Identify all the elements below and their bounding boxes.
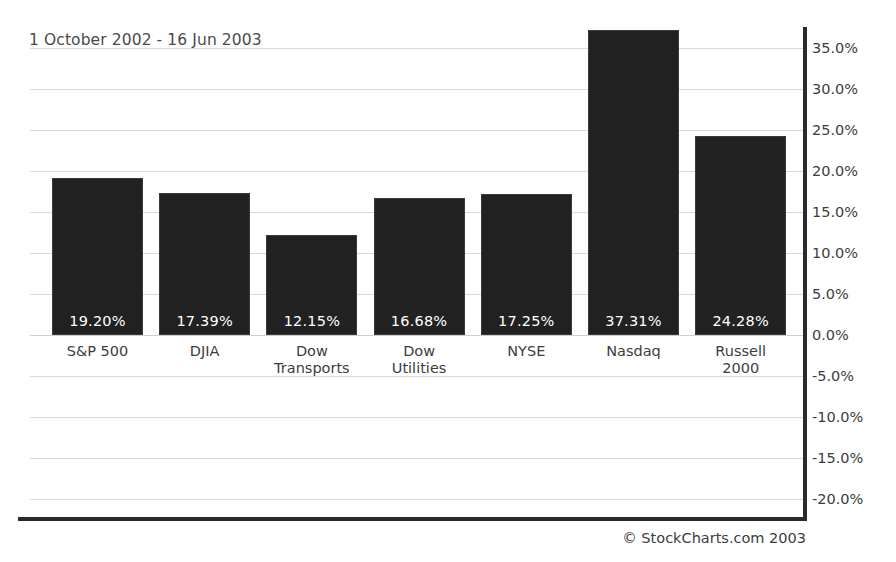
bar-value-label: 12.15% [267,313,356,329]
bar: 16.68% [374,198,465,334]
y-axis-line [803,27,807,521]
gridline [30,48,805,49]
y-axis-tick-label: -10.0% [812,409,863,425]
bar: 12.15% [266,235,357,334]
bar: 37.31% [588,30,679,335]
y-axis-tick-label: 15.0% [812,204,858,220]
y-axis-tick-label: -20.0% [812,491,863,507]
x-axis-category-label: Dow Utilities [364,343,475,377]
y-axis-tick-label: -15.0% [812,450,863,466]
y-axis-tick-label: 5.0% [812,286,849,302]
bar-value-label: 16.68% [375,313,464,329]
gridline [30,417,805,418]
x-axis-line [18,517,807,521]
x-axis-category-label: Dow Transports [256,343,367,377]
gridline [30,499,805,500]
x-axis-category-label: NYSE [471,343,582,360]
gridline [30,171,805,172]
y-axis-tick-label: -5.0% [812,368,854,384]
bar-value-label: 24.28% [696,313,785,329]
gridline [30,458,805,459]
x-axis-category-label: Nasdaq [578,343,689,360]
x-axis-category-label: S&P 500 [42,343,153,360]
bar-value-label: 37.31% [589,313,678,329]
plot-area: 19.20%17.39%12.15%16.68%17.25%37.31%24.2… [30,28,805,519]
gridline [30,89,805,90]
y-axis-tick-label: 30.0% [812,81,858,97]
x-axis-category-label: Russell 2000 [685,343,796,377]
y-axis-tick-label: 10.0% [812,245,858,261]
y-axis-tick-label: 20.0% [812,163,858,179]
gridline [30,130,805,131]
gridline [30,335,805,336]
copyright-notice: © StockCharts.com 2003 [622,530,806,546]
y-axis-tick-label: 25.0% [812,122,858,138]
bar-value-label: 17.25% [482,313,571,329]
bar-value-label: 19.20% [53,313,142,329]
y-axis-tick-label: 35.0% [812,40,858,56]
x-axis-category-label: DJIA [149,343,260,360]
bar: 17.39% [159,193,250,335]
y-axis-tick-label: 0.0% [812,327,849,343]
bar-value-label: 17.39% [160,313,249,329]
bar: 17.25% [481,194,572,335]
bar: 24.28% [695,136,786,335]
bar: 19.20% [52,178,143,335]
bar-chart: 1 October 2002 - 16 Jun 2003 19.20%17.39… [0,0,896,562]
